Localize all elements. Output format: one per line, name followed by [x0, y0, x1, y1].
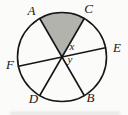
point-label-a: A [27, 3, 36, 18]
geometry-figure: A C E F D B x y [0, 0, 128, 115]
point-label-c: C [84, 1, 93, 16]
point-label-e: E [112, 40, 121, 55]
point-label-b: B [87, 90, 95, 105]
circle-diagram: A C E F D B x y [0, 0, 128, 115]
shaded-sector [40, 13, 85, 57]
angle-label-x: x [69, 40, 75, 52]
point-label-f: F [5, 57, 15, 72]
point-label-d: D [28, 91, 39, 106]
angle-label-y: y [67, 53, 73, 65]
